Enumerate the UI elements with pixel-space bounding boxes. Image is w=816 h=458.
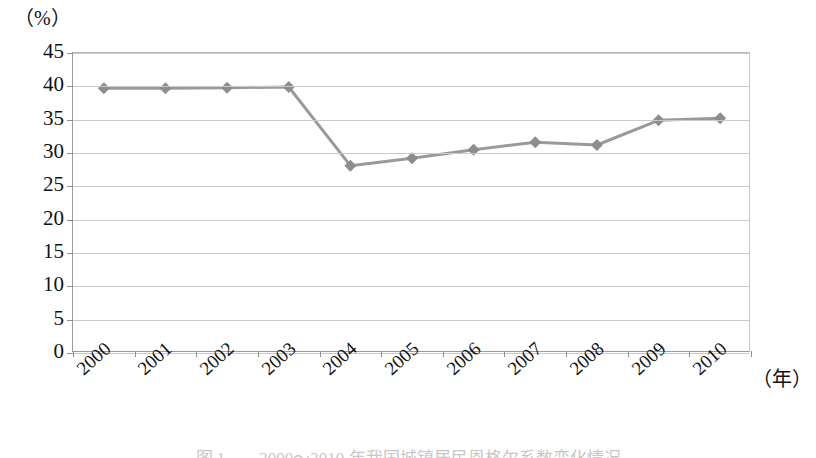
y-axis-tick-label: 30 [18, 141, 64, 162]
data-series-line [73, 53, 751, 353]
y-axis-tick-label: 15 [18, 241, 64, 262]
y-axis-tick-label: 0 [18, 341, 64, 362]
y-axis-tickmark [67, 120, 73, 121]
data-point-marker [714, 112, 726, 124]
y-axis-tickmark [67, 153, 73, 154]
y-axis-tick-label: 25 [18, 174, 64, 195]
data-point-marker [529, 136, 541, 148]
y-axis-tickmark [67, 320, 73, 321]
y-axis-tickmark [67, 286, 73, 287]
gridline [73, 120, 749, 121]
data-point-marker [98, 82, 110, 94]
y-axis-tick-label: 45 [18, 41, 64, 62]
data-point-marker [406, 152, 418, 164]
data-point-marker [159, 82, 171, 94]
gridline [73, 153, 749, 154]
y-axis-tick-label: 20 [18, 208, 64, 229]
gridline [73, 186, 749, 187]
y-axis-tickmark [67, 86, 73, 87]
figure-caption: 图 1 2000～2010 年我国城镇居民恩格尔系数变化情况 [0, 449, 816, 458]
y-axis-tickmark [67, 220, 73, 221]
gridline [73, 253, 749, 254]
y-axis-tickmark [67, 186, 73, 187]
y-axis-tick-label: 35 [18, 108, 64, 129]
data-point-marker [591, 139, 603, 151]
y-axis-tick-label: 5 [18, 308, 64, 329]
x-axis-unit-label: （年） [752, 368, 812, 390]
y-axis-tick-label: 10 [18, 274, 64, 295]
y-axis-tick-label: 40 [18, 74, 64, 95]
line-chart: （%） 051015202530354045 20002001200220032… [0, 0, 816, 458]
gridline [73, 220, 749, 221]
data-point-marker [221, 82, 233, 94]
gridline [73, 320, 749, 321]
plot-area [72, 52, 750, 352]
gridline [73, 86, 749, 87]
x-axis-tick-labels: 2000200120022003200420052006200720082009… [72, 352, 750, 422]
gridline [73, 53, 749, 54]
x-axis-tickmark [751, 351, 752, 357]
y-axis-tickmark [67, 253, 73, 254]
y-axis-tick-labels: 051015202530354045 [8, 0, 64, 458]
y-axis-tickmark [67, 53, 73, 54]
gridline [73, 286, 749, 287]
